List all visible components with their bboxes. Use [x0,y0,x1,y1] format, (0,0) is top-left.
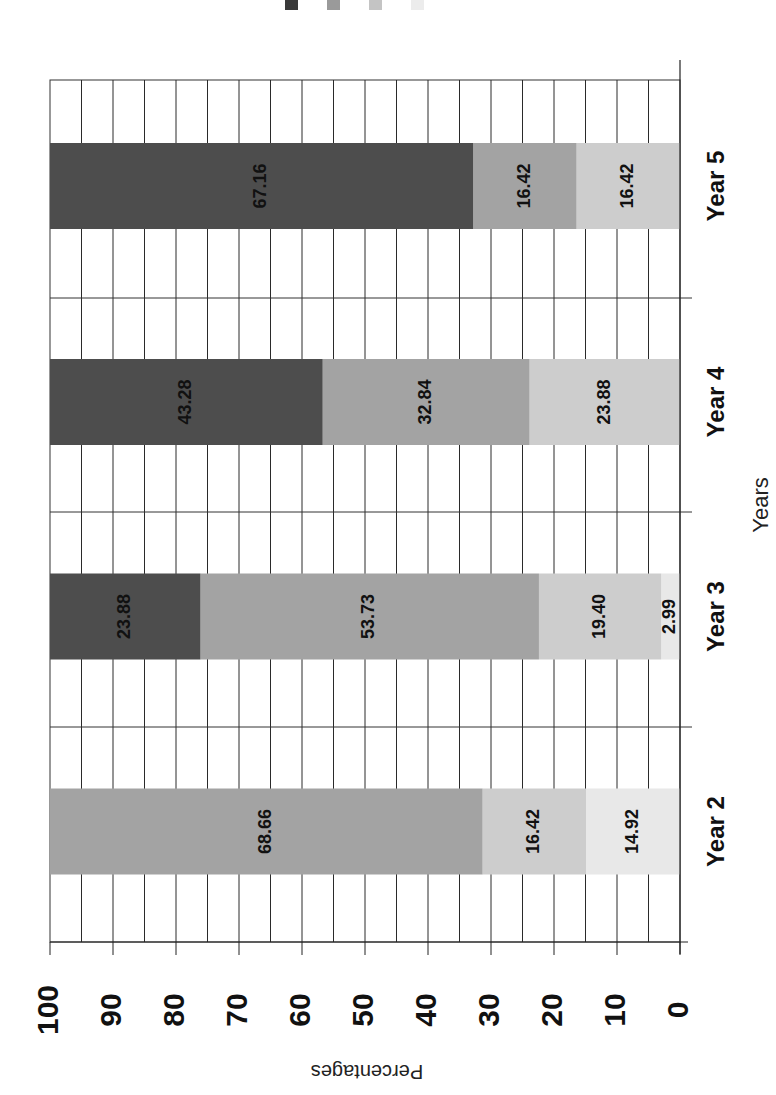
data-label: 68.66 [255,809,275,854]
data-label: 2.99 [659,599,679,634]
category-label: Year 2 [702,796,729,867]
y-tick-label: 0 [661,1002,694,1019]
legend [285,0,424,10]
y-tick-label: 80 [157,993,190,1026]
data-label: 16.42 [523,809,543,854]
data-label: 23.88 [114,594,134,639]
y-tick-label: 10 [598,993,631,1026]
y-tick-label: 20 [535,993,568,1026]
y-tick-label: 40 [409,993,442,1026]
data-label: 14.92 [622,809,642,854]
legend-swatch-4 [411,0,424,10]
x-axis-title: Years [748,477,773,532]
y-tick-label: 70 [220,993,253,1026]
data-label: 23.88 [594,379,614,424]
data-label: 53.73 [358,594,378,639]
y-axis-title: Percentages [311,1061,423,1083]
y-tick-label: 30 [472,993,505,1026]
stacked-bar-chart: 16.4216.4267.1623.8832.8443.282.9919.405… [0,0,776,1095]
legend-swatch-2 [327,0,340,10]
category-label: Year 4 [702,366,729,437]
y-tick-label: 60 [283,993,316,1026]
data-label: 16.42 [617,163,637,208]
y-tick-label: 90 [94,993,127,1026]
data-label: 32.84 [415,379,435,424]
data-label: 67.16 [250,163,270,208]
data-label: 19.40 [589,594,609,639]
y-tick-label: 100 [31,985,64,1035]
category-label: Year 5 [702,151,729,222]
data-label: 43.28 [175,379,195,424]
legend-swatch-3 [369,0,382,10]
y-tick-label: 50 [346,993,379,1026]
category-label: Year 3 [702,581,729,652]
data-label: 16.42 [514,163,534,208]
legend-swatch-1 [285,0,298,10]
